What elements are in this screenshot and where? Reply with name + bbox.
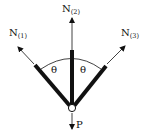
force-arrow-n1 [18,47,34,64]
force-diagram: N(1) N(2) N(3) P θ θ [0,0,145,133]
angle-label-left: θ [51,64,57,75]
label-n1: N(1) [9,27,27,40]
force-arrow-n3 [107,46,125,64]
angle-label-right: θ [80,64,86,75]
joint-pin [68,104,75,111]
label-p: P [76,119,83,130]
bar-3 [74,66,106,106]
label-n3: N(3) [121,27,139,40]
label-n2: N(2) [62,3,80,16]
